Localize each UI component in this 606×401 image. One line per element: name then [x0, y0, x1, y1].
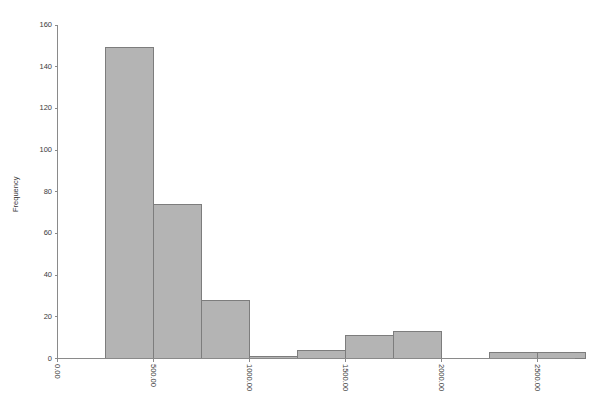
- histogram-bar: [490, 352, 538, 358]
- x-tick-label: 2500.00: [533, 364, 541, 391]
- x-tick-label: 1000.00: [245, 364, 253, 391]
- x-tick-label: 1500.00: [341, 364, 349, 391]
- histogram-bar: [298, 350, 346, 358]
- histogram-bar: [346, 336, 394, 359]
- histogram-bar: [106, 48, 154, 359]
- histogram-bar: [538, 352, 586, 358]
- y-axis-title: Frequency: [12, 177, 20, 212]
- x-tick-label: 2000.00: [437, 364, 445, 391]
- bars-group: [106, 48, 586, 359]
- y-tick-label: 60: [14, 229, 52, 237]
- x-tick-label: 500.00: [149, 364, 157, 387]
- histogram-bar: [394, 331, 442, 358]
- histogram-chart: 020406080100120140160 0.00500.001000.001…: [0, 0, 606, 401]
- y-tick-label: 140: [14, 63, 52, 71]
- y-tick-label: 100: [14, 146, 52, 154]
- y-tick-label: 20: [14, 313, 52, 321]
- histogram-bar: [202, 300, 250, 358]
- y-tick-label: 120: [14, 104, 52, 112]
- y-tick-label: 0: [14, 355, 52, 363]
- histogram-bar: [154, 204, 202, 358]
- x-tick-label: 0.00: [53, 364, 61, 379]
- y-tick-label: 40: [14, 271, 52, 279]
- y-tick-label: 160: [14, 21, 52, 29]
- plot-area: [0, 0, 606, 401]
